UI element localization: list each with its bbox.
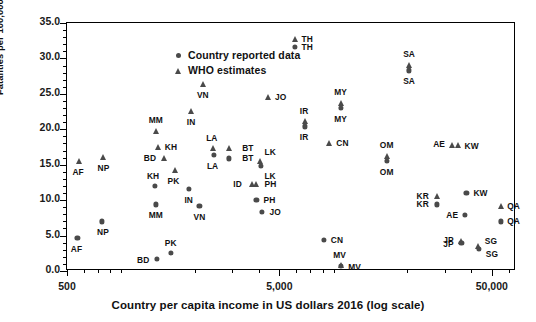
data-point-label: KW (464, 141, 478, 151)
data-point-om-who (384, 153, 390, 159)
circle-marker-icon (171, 49, 185, 61)
data-point-sa-who (406, 62, 412, 68)
data-point-label: BT (242, 143, 253, 153)
y-tick-major (60, 58, 67, 59)
data-point-label: AE (446, 210, 458, 220)
x-tick-minor (84, 269, 85, 273)
legend-item[interactable]: Country reported data (171, 47, 300, 62)
data-point-ph-who (253, 181, 259, 187)
y-tick-minor (63, 243, 67, 244)
data-point-label: MM (149, 210, 163, 220)
data-point-label: PH (265, 179, 277, 189)
data-point-label: JO (275, 92, 286, 102)
data-point-label: TH (301, 42, 312, 52)
x-tick-minor (334, 269, 335, 273)
y-tick-minor (63, 37, 67, 38)
data-point-label: IN (187, 117, 196, 127)
data-point-label: AF (72, 167, 83, 177)
data-point-mm-reported (153, 202, 158, 207)
data-point-label: MV (333, 250, 346, 260)
data-point-label: KH (165, 142, 177, 152)
data-point-ph-reported (254, 198, 259, 203)
y-tick-minor (63, 51, 67, 52)
data-point-la-who (210, 145, 216, 151)
data-point-label: OM (380, 140, 394, 150)
data-point-in-reported (186, 186, 191, 191)
x-tick-minor (110, 269, 111, 273)
data-point-af-reported (75, 235, 80, 240)
chart-legend: Country reported dataWHO estimates (171, 47, 300, 77)
data-point-jo-reported (260, 210, 265, 215)
data-point-label: VN (193, 212, 205, 222)
y-tick-minor (63, 30, 67, 31)
data-point-la-reported (211, 152, 216, 157)
data-point-label: AE (433, 139, 445, 149)
triangle-marker-icon (171, 64, 185, 76)
data-point-label: PK (168, 176, 180, 186)
data-point-label: PH (264, 195, 276, 205)
x-tick-minor (323, 269, 324, 273)
data-point-label: IR (300, 132, 309, 142)
y-tick-minor (63, 250, 67, 251)
y-tick-label: 25.0 (20, 86, 60, 98)
legend-label: WHO estimates (188, 64, 266, 76)
data-point-jp-who (458, 238, 464, 244)
x-tick-minor (492, 269, 493, 273)
y-tick-minor (63, 207, 67, 208)
data-point-label: KR (416, 191, 428, 201)
y-tick-minor (63, 87, 67, 88)
data-point-label: MM (149, 115, 163, 125)
y-tick-minor (63, 193, 67, 194)
y-tick-major (60, 271, 67, 272)
y-tick-minor (63, 122, 67, 123)
x-tick-minor (67, 269, 68, 273)
data-point-sa-reported (407, 68, 412, 73)
y-tick-major (60, 200, 67, 201)
x-tick-minor (98, 269, 99, 273)
data-point-label: SA (403, 76, 415, 86)
data-point-label: PK (165, 238, 177, 248)
data-point-label: KW (473, 188, 487, 198)
y-tick-minor (63, 186, 67, 187)
y-tick-major (60, 129, 67, 130)
data-point-kr-reported (434, 202, 439, 207)
y-tick-minor (63, 108, 67, 109)
x-tick-minor (259, 269, 260, 273)
data-point-label: BD (144, 153, 156, 163)
y-tick-minor (63, 221, 67, 222)
y-tick-label: 15.0 (20, 157, 60, 169)
data-point-cn-who (326, 140, 332, 146)
x-tick-minor (195, 269, 196, 273)
data-point-bd-who (161, 155, 167, 161)
data-point-bt-who (226, 145, 232, 151)
legend-label: Country reported data (188, 49, 300, 61)
data-point-label: KR (416, 199, 428, 209)
y-tick-minor (63, 80, 67, 81)
data-point-ir-reported (302, 124, 307, 129)
y-axis-title: Fatalities per 100,000 persons (0, 0, 5, 95)
data-point-vn-reported (197, 203, 202, 208)
y-tick-minor (63, 214, 67, 215)
data-point-my-who (338, 100, 344, 106)
data-point-th-who (292, 36, 298, 42)
data-point-label: CN (336, 138, 348, 148)
y-tick-label: 0.0 (20, 263, 60, 275)
data-point-kw-reported (464, 190, 469, 195)
data-point-label: IR (300, 106, 309, 116)
y-tick-minor (63, 66, 67, 67)
y-tick-minor (63, 101, 67, 102)
y-tick-minor (63, 143, 67, 144)
data-point-jo-who (265, 94, 271, 100)
legend-item[interactable]: WHO estimates (171, 62, 300, 77)
data-point-label: LA (207, 161, 218, 171)
y-tick-label: 20.0 (20, 121, 60, 133)
data-point-label: JO (270, 207, 281, 217)
x-tick-label: 5,000 (266, 280, 292, 292)
data-point-af-who (76, 158, 82, 164)
x-tick-minor (509, 269, 510, 273)
y-tick-minor (63, 172, 67, 173)
data-point-np-who (100, 154, 106, 160)
y-tick-major (60, 94, 67, 95)
data-point-vn-who (200, 81, 206, 87)
data-point-label: LK (265, 147, 276, 157)
